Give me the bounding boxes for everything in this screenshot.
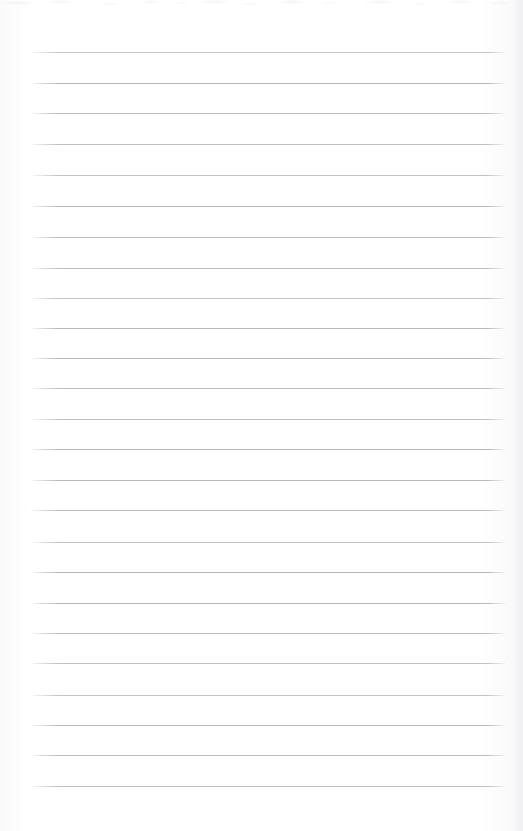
rule-line [32, 175, 505, 176]
lined-page [0, 0, 523, 831]
rule-line [32, 358, 505, 359]
rule-line [32, 206, 505, 207]
rule-line [32, 572, 505, 573]
rule-line [32, 144, 505, 145]
rule-line [32, 695, 505, 696]
rule-line [32, 480, 505, 481]
rule-line [32, 786, 505, 787]
rule-line [32, 755, 505, 756]
rule-line [32, 510, 505, 511]
rule-line [32, 237, 505, 238]
rule-line [32, 603, 505, 604]
rule-line [32, 449, 505, 450]
rule-line [32, 52, 505, 53]
rule-line [32, 419, 505, 420]
rule-line [32, 388, 505, 389]
rule-line [32, 298, 505, 299]
rule-line [32, 542, 505, 543]
rule-line [32, 268, 505, 269]
ruled-lines-layer [0, 0, 523, 831]
rule-line [32, 725, 505, 726]
rule-line [32, 663, 505, 664]
rule-line [32, 83, 505, 84]
rule-line [32, 633, 505, 634]
rule-line [32, 113, 505, 114]
rule-line [32, 328, 505, 329]
